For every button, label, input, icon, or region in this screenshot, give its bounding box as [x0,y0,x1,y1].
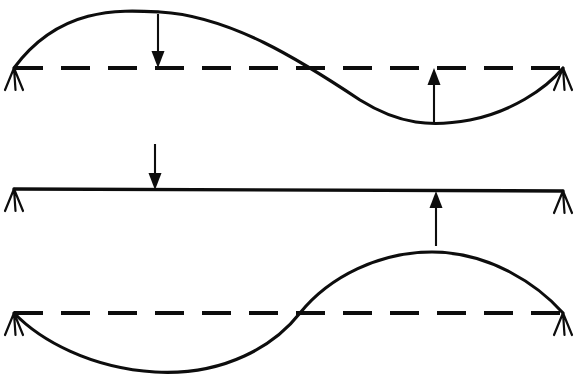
beam-curve-second-mode [14,252,563,372]
support-middle-left [5,189,23,211]
load-down-top-arrow [152,14,165,68]
support-top-left [5,68,23,90]
support-middle-right [554,191,572,213]
load-down-middle-arrow [149,144,162,190]
beam-curve-first-mode [14,11,563,123]
panel-second-mode [5,252,572,372]
panel-undeformed-beam [5,144,572,246]
beam-straight-line [14,189,563,191]
diagram-canvas [0,0,576,377]
support-bottom-right [554,313,572,335]
support-bottom-left [5,313,23,335]
panel-first-mode [5,11,572,124]
beam-deflection-diagram [0,0,576,377]
load-up-top-arrow [428,68,441,124]
load-up-middle-arrow [430,191,443,246]
support-top-right [554,68,572,90]
